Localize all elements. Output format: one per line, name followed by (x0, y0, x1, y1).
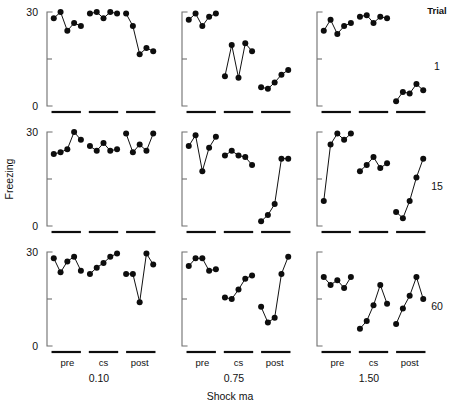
panel-trial-1-shock-0.75 (182, 11, 291, 112)
data-point (265, 86, 271, 92)
data-point (58, 149, 64, 155)
phase-label-cs: cs (99, 357, 109, 368)
phase-label-post: post (401, 357, 419, 368)
data-point (321, 28, 327, 34)
data-point (114, 11, 120, 17)
data-point (321, 198, 327, 204)
x-axis-title: Shock ma (207, 390, 254, 402)
data-point (413, 174, 419, 180)
data-point (213, 134, 219, 140)
data-point (407, 293, 413, 299)
data-point (328, 142, 334, 148)
data-point (150, 262, 156, 268)
data-point (130, 149, 136, 155)
data-point (242, 154, 248, 160)
data-point (348, 274, 354, 280)
data-point (265, 212, 271, 218)
trial-row-label-60: 60 (431, 300, 443, 312)
data-point (107, 254, 113, 260)
data-point (420, 296, 426, 302)
panel-trial-60-shock-0.10 (47, 251, 156, 352)
data-point (334, 31, 340, 37)
series-line-cs (225, 43, 252, 77)
data-point (371, 154, 377, 160)
data-point (285, 67, 291, 73)
data-point (285, 254, 291, 260)
data-point (137, 142, 143, 148)
data-point (278, 72, 284, 78)
data-point (364, 318, 370, 324)
data-point (377, 165, 383, 171)
data-point (371, 302, 377, 308)
phase-label-pre: pre (195, 357, 209, 368)
data-point (265, 320, 271, 326)
data-point (186, 143, 192, 149)
y-tick-label-max: 30 (26, 246, 38, 258)
data-point (364, 12, 370, 18)
data-point (101, 140, 107, 146)
data-point (236, 75, 242, 81)
phase-label-cs: cs (234, 357, 244, 368)
y-tick-label-max: 30 (26, 126, 38, 138)
data-point (78, 23, 84, 29)
data-point (249, 273, 255, 279)
data-point (249, 48, 255, 54)
data-point (400, 305, 406, 311)
panels-layer (47, 9, 426, 352)
data-point (94, 148, 100, 154)
phase-label-post: post (131, 357, 149, 368)
data-point (150, 131, 156, 137)
data-point (213, 11, 219, 17)
data-point (377, 282, 383, 288)
data-point (321, 274, 327, 280)
data-point (278, 156, 284, 162)
data-point (71, 254, 77, 260)
data-point (384, 301, 390, 307)
data-point (222, 73, 228, 79)
data-point (413, 81, 419, 87)
data-point (407, 90, 413, 96)
data-point (114, 251, 120, 257)
figure-container: 300300300Freezingprecspost0.10precspost0… (0, 0, 460, 403)
data-point (87, 11, 93, 17)
data-point (71, 129, 77, 135)
y-tick-label-min: 0 (32, 100, 38, 112)
data-point (420, 156, 426, 162)
data-point (193, 11, 199, 17)
data-point (420, 87, 426, 93)
panel-trial-60-shock-1.50 (317, 252, 426, 352)
data-point (400, 215, 406, 221)
data-point (199, 168, 205, 174)
data-point (278, 271, 284, 277)
data-point (64, 146, 70, 152)
panel-trial-1-shock-1.50 (317, 12, 426, 112)
data-point (258, 84, 264, 90)
data-point (272, 201, 278, 207)
data-point (206, 145, 212, 151)
data-point (186, 17, 192, 23)
labels-layer: 300300300Freezingprecspost0.10precspost0… (3, 5, 447, 402)
data-point (364, 162, 370, 168)
data-point (384, 15, 390, 21)
data-point (101, 15, 107, 21)
panel-trial-15-shock-0.75 (182, 132, 291, 232)
trial-header-label: Trial (427, 5, 447, 16)
data-point (272, 80, 278, 86)
data-point (242, 276, 248, 282)
y-tick-label-max: 30 (26, 6, 38, 18)
panel-trial-60-shock-0.75 (182, 252, 291, 352)
series-line-pre (189, 135, 216, 171)
series-line-post (261, 70, 288, 89)
data-point (193, 132, 199, 138)
data-point (123, 131, 129, 137)
data-point (400, 89, 406, 95)
data-point (193, 255, 199, 261)
data-point (413, 274, 419, 280)
data-point (384, 160, 390, 166)
data-point (236, 287, 242, 293)
data-point (328, 282, 334, 288)
data-point (258, 304, 264, 310)
data-point (249, 162, 255, 168)
data-point (206, 14, 212, 20)
data-point (341, 137, 347, 143)
